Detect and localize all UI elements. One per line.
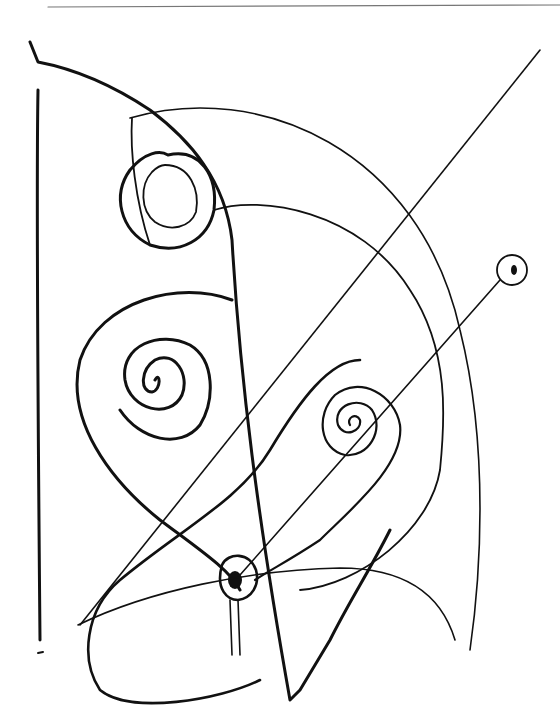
heart-stem: [230, 600, 240, 655]
right-lobe: [88, 360, 360, 703]
open-circle-spiral: [120, 153, 214, 248]
inner-loop: [132, 118, 197, 245]
sketch-illustration: [0, 0, 560, 722]
heart-fill: [228, 571, 242, 589]
left-spiral: [77, 293, 240, 591]
dot-stem: [240, 280, 500, 575]
bottom-loop: [78, 568, 455, 640]
drawing-canvas: [0, 0, 560, 722]
diagonal-line: [80, 50, 540, 625]
tall-quad-frame: [30, 42, 390, 700]
top-rule: [48, 5, 560, 7]
ink-mark: [38, 652, 43, 653]
small-dot: [511, 265, 517, 275]
